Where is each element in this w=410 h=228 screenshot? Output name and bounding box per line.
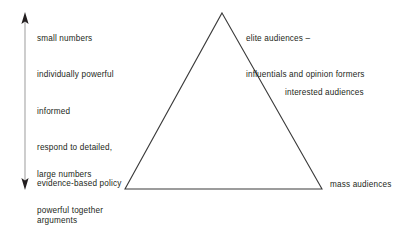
mass-descriptor-line: powerful together [37, 205, 115, 217]
elite-descriptor-line: individually powerful [37, 69, 121, 81]
audience-pyramid-diagram: small numbers individually powerful info… [0, 0, 410, 228]
elite-descriptor-line: small numbers [37, 33, 121, 45]
mass-descriptor-line: large numbers [37, 169, 115, 181]
label-interested-audiences: interested audiences [285, 87, 364, 99]
label-elite-line: elite audiences – [246, 33, 365, 45]
label-elite-line: influentials and opinion formers [246, 69, 365, 81]
mass-descriptor-block: large numbers powerful together uninform… [37, 145, 115, 228]
label-mass-audiences: mass audiences [330, 179, 391, 191]
elite-descriptor-line: informed [37, 106, 121, 118]
